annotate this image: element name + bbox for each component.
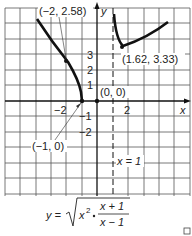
equation-exponent: 2 (86, 206, 91, 215)
y-axis-arrow-icon (95, 2, 100, 9)
equation: y = x 2 x + 1 x − 1 (45, 198, 130, 228)
y-axis-label: y (100, 5, 108, 17)
label-point-min: (1.62, 3.33) (122, 53, 178, 65)
equation-x: x (78, 209, 85, 221)
dot-icon (93, 215, 95, 217)
equation-denominator: x − 1 (99, 216, 124, 228)
equation-lhs: y = (45, 209, 62, 221)
label-point-neg2: (−2, 2.58) (39, 5, 86, 17)
equation-numerator: x + 1 (99, 200, 124, 212)
right-branch-curve (114, 14, 168, 46)
left-branch-curve (37, 19, 82, 101)
asymptote-label: x = 1 (116, 155, 141, 167)
tick-y-neg2: −2 (79, 126, 92, 138)
tick-y-1: 1 (87, 79, 93, 91)
tick-x-2: 2 (124, 104, 130, 116)
point-origin (95, 99, 99, 103)
point-neg2 (64, 59, 68, 63)
arrowhead-icon (76, 103, 81, 108)
tick-y-2: 2 (87, 64, 93, 76)
graph: (−2, 2.58) y (1.62, 3.33) (0, 0) (−1, 0)… (0, 0, 192, 236)
label-point-neg1: (−1, 0) (32, 140, 64, 152)
tick-y-neg1: −1 (79, 110, 92, 122)
x-axis-label: x (179, 104, 186, 116)
end-mark-icon (184, 228, 190, 234)
tick-y-3: 3 (87, 49, 93, 61)
point-min (120, 45, 124, 49)
point-neg1 (80, 99, 84, 103)
tick-x-neg2: −2 (54, 104, 67, 116)
label-origin: (0, 0) (100, 86, 126, 98)
